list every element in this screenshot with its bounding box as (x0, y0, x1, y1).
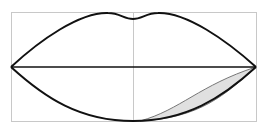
lips-diagram (0, 0, 264, 124)
lower-lip-shading (140, 67, 256, 121)
